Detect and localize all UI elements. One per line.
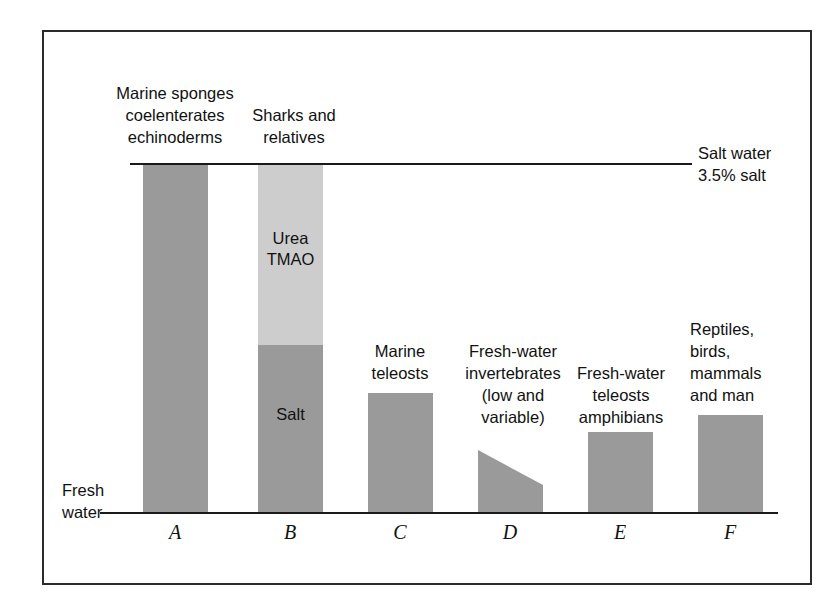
salt-water-reference-line xyxy=(130,163,692,165)
axis-letter-a: A xyxy=(143,521,207,544)
axis-letter-f: F xyxy=(698,521,762,544)
bar-caption-c: Marine teleosts xyxy=(344,340,456,384)
bar-e xyxy=(588,432,653,512)
figure-root: Marine sponges coelenterates echinoderms… xyxy=(0,0,836,610)
plot-area: Marine sponges coelenterates echinoderms… xyxy=(0,0,836,610)
axis-letter-d: D xyxy=(478,521,542,544)
bar-caption-e: Fresh-water teleosts amphibians xyxy=(552,362,690,428)
axis-letter-c: C xyxy=(368,521,432,544)
fresh-water-baseline xyxy=(100,512,778,514)
bar-caption-b: Sharks and relatives xyxy=(238,104,350,148)
bar-d xyxy=(478,448,543,512)
axis-letter-e: E xyxy=(588,521,652,544)
bar-caption-a: Marine sponges coelenterates echinoderms xyxy=(100,82,250,148)
fresh-water-annotation: Fresh water xyxy=(62,479,104,523)
bar-b-segment-urea-tmao xyxy=(258,165,323,345)
bar-f xyxy=(698,415,763,512)
bar-b-segment-salt xyxy=(258,345,323,512)
bar-a xyxy=(143,165,208,512)
bar-c xyxy=(368,393,433,512)
axis-letter-b: B xyxy=(258,521,322,544)
bar-caption-f: Reptiles, birds, mammals and man xyxy=(690,318,808,406)
salt-water-annotation: Salt water 3.5% salt xyxy=(698,142,771,186)
